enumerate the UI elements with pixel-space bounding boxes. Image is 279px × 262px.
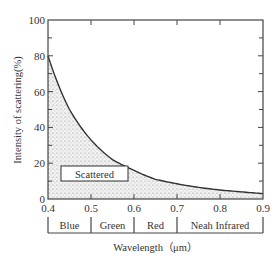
y-axis-title: Intensity of scattering(%) [12,56,24,164]
band-label-blue: Blue [60,220,80,231]
x-tick-label: 0.4 [41,202,55,214]
scattering-chart: 020406080100 0.40.50.60.70.80.9 Scattere… [0,0,279,262]
x-axis-title: Wavelength（μm） [113,242,197,253]
y-tick-labels: 020406080100 [29,14,46,205]
y-tick-label: 60 [34,86,46,98]
x-tick-labels: 0.40.50.60.70.80.9 [41,202,270,214]
legend-label: Scattered [75,169,115,180]
legend: Scattered [61,166,128,181]
x-tick-label: 0.7 [170,202,184,214]
x-tick-label: 0.5 [84,202,98,214]
x-tick-label: 0.9 [256,202,270,214]
y-tick-label: 20 [34,157,46,169]
color-bands: BlueGreenRedNeah Infrared [48,217,263,233]
x-tick-label: 0.8 [213,202,227,214]
band-label-neah-infrared: Neah Infrared [191,220,250,231]
y-tick-label: 100 [29,14,46,26]
band-label-green: Green [100,220,126,231]
band-label-red: Red [147,220,165,231]
x-tick-label: 0.6 [127,202,141,214]
y-tick-label: 40 [34,121,46,133]
y-tick-label: 80 [34,50,46,62]
